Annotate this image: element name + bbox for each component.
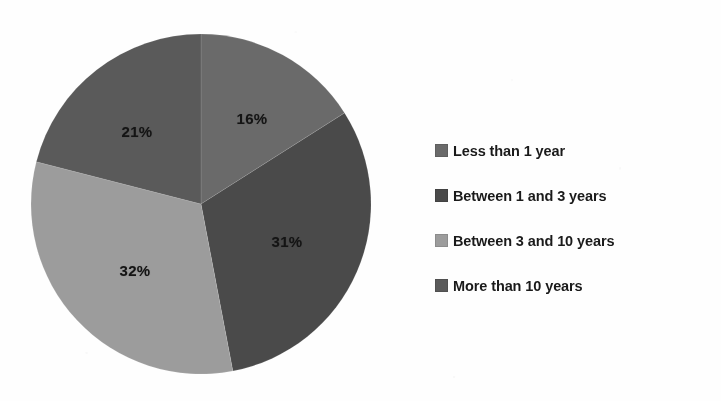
legend-item-label: More than 10 years <box>453 278 583 294</box>
legend-swatch-icon-2 <box>435 189 448 202</box>
legend-item-label: Between 1 and 3 years <box>453 188 606 204</box>
pie-slice-label-1: 16% <box>237 110 268 127</box>
legend-item-1[interactable]: Less than 1 year <box>435 128 705 173</box>
legend-item-3[interactable]: Between 3 and 10 years <box>435 218 705 263</box>
legend-item-4[interactable]: More than 10 years <box>435 263 705 308</box>
legend-item-label: Between 3 and 10 years <box>453 233 614 249</box>
legend-item-2[interactable]: Between 1 and 3 years <box>435 173 705 218</box>
pie-slice-label-2: 31% <box>272 233 303 250</box>
pie-slice-label-4: 21% <box>122 123 153 140</box>
pie-chart: 16%31%32%21% <box>0 0 410 401</box>
legend-swatch-icon-1 <box>435 144 448 157</box>
pie-slice-group <box>31 34 371 374</box>
chart-legend: Less than 1 yearBetween 1 and 3 yearsBet… <box>435 128 705 308</box>
legend-item-label: Less than 1 year <box>453 143 565 159</box>
pie-chart-page: 16%31%32%21% Less than 1 yearBetween 1 a… <box>0 0 721 401</box>
legend-swatch-icon-3 <box>435 234 448 247</box>
pie-svg <box>0 0 410 401</box>
pie-slice-label-3: 32% <box>120 262 151 279</box>
legend-swatch-icon-4 <box>435 279 448 292</box>
